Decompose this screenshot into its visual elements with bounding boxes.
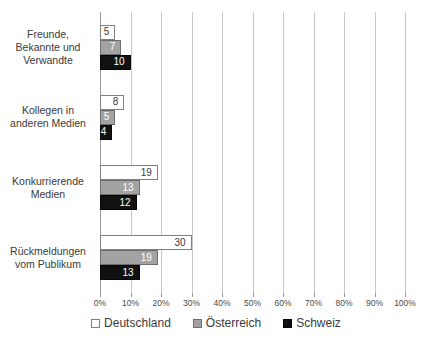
category-label-0: Freunde,Bekannte undVerwandte — [0, 28, 96, 67]
x-tick — [405, 293, 406, 297]
x-tick-label: 20% — [152, 298, 169, 308]
category-label-line: Freunde, — [0, 28, 96, 41]
bar-deutschland-3: 30 — [100, 235, 192, 250]
category-label-line: vom Publikum — [0, 258, 96, 271]
category-label-3: Rückmeldungenvom Publikum — [0, 245, 96, 271]
category-label-line: Verwandte — [0, 54, 96, 67]
chart-legend: DeutschlandÖsterreichSchweiz — [0, 317, 432, 330]
bar-chart: Freunde,Bekannte undVerwandteKollegen in… — [0, 0, 432, 346]
legend-item-sterreich[interactable]: Österreich — [193, 317, 261, 330]
x-tick — [253, 293, 254, 297]
bar-sterreich-2: 13 — [100, 180, 140, 195]
x-tick-label: 10% — [122, 298, 139, 308]
bar-group: 191312 — [100, 153, 405, 223]
x-tick-label: 100% — [394, 298, 416, 308]
x-tick — [314, 293, 315, 297]
legend-label: Österreich — [206, 317, 261, 330]
bar-value-label: 5 — [104, 112, 115, 122]
black-square-icon — [283, 319, 292, 328]
x-tick — [192, 293, 193, 297]
bar-sterreich-0: 7 — [100, 40, 121, 55]
x-tick-label: 80% — [335, 298, 352, 308]
bar-value-label: 19 — [141, 253, 157, 263]
x-tick-label: 90% — [366, 298, 383, 308]
category-label-line: Kollegen in — [0, 104, 96, 117]
bar-sterreich-1: 5 — [100, 110, 115, 125]
bar-schweiz-1: 4 — [100, 125, 112, 140]
bar-value-label: 4 — [101, 127, 112, 137]
bar-group: 854 — [100, 82, 405, 152]
bar-value-label: 12 — [119, 198, 135, 208]
bar-deutschland-0: 5 — [100, 25, 115, 40]
plot-area: 5710854191312301913 — [100, 12, 405, 293]
gray-square-icon — [193, 319, 202, 328]
white-square-icon — [91, 319, 100, 328]
x-tick — [222, 293, 223, 297]
x-tick — [161, 293, 162, 297]
bar-schweiz-3: 13 — [100, 265, 140, 280]
x-tick-label: 0% — [94, 298, 106, 308]
bar-value-label: 5 — [104, 27, 115, 37]
category-axis-labels: Freunde,Bekannte undVerwandteKollegen in… — [0, 12, 96, 293]
category-label-line: anderen Medien — [0, 117, 96, 130]
category-label-line: Konkurrierende — [0, 175, 96, 188]
legend-label: Schweiz — [296, 317, 341, 330]
x-tick — [344, 293, 345, 297]
x-tick-label: 70% — [305, 298, 322, 308]
x-tick-label: 30% — [183, 298, 200, 308]
legend-label: Deutschland — [104, 317, 171, 330]
bar-deutschland-1: 8 — [100, 95, 124, 110]
bar-deutschland-2: 19 — [100, 165, 158, 180]
bar-value-label: 13 — [123, 268, 139, 278]
x-tick-label: 40% — [213, 298, 230, 308]
category-label-1: Kollegen inanderen Medien — [0, 104, 96, 130]
legend-item-schweiz[interactable]: Schweiz — [283, 317, 341, 330]
bar-value-label: 19 — [141, 168, 157, 178]
bar-group: 5710 — [100, 12, 405, 82]
bar-groups: 5710854191312301913 — [100, 12, 405, 293]
bar-value-label: 30 — [174, 238, 190, 248]
x-axis: 0%10%20%30%40%50%60%70%80%90%100% — [100, 293, 405, 313]
x-tick-label: 60% — [274, 298, 291, 308]
x-tick — [375, 293, 376, 297]
x-tick-label: 50% — [244, 298, 261, 308]
bar-value-label: 7 — [110, 42, 121, 52]
bar-sterreich-3: 19 — [100, 250, 158, 265]
category-label-line: Medien — [0, 188, 96, 201]
category-label-2: KonkurrierendeMedien — [0, 175, 96, 201]
x-tick — [131, 293, 132, 297]
category-label-line: Bekannte und — [0, 41, 96, 54]
legend-item-deutschland[interactable]: Deutschland — [91, 317, 171, 330]
bar-schweiz-2: 12 — [100, 195, 137, 210]
bar-value-label: 13 — [123, 183, 139, 193]
bar-value-label: 8 — [113, 97, 124, 107]
x-tick — [100, 293, 101, 297]
gridline-100 — [405, 12, 406, 293]
x-tick — [283, 293, 284, 297]
bar-schweiz-0: 10 — [100, 55, 131, 70]
bar-value-label: 10 — [113, 57, 129, 67]
category-label-line: Rückmeldungen — [0, 245, 96, 258]
bar-group: 301913 — [100, 223, 405, 293]
